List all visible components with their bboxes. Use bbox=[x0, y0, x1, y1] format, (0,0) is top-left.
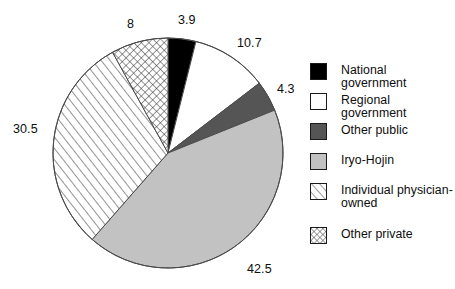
slice-value-label-other-private: 8 bbox=[127, 17, 134, 31]
legend-swatch-solid-dark-gray bbox=[310, 123, 327, 140]
pie-chart-figure: 3.9 10.7 4.3 42.5 30.5 8 National govern… bbox=[0, 0, 455, 289]
legend-label: Regional government bbox=[341, 92, 455, 119]
diagonal-hatch-icon bbox=[311, 184, 326, 199]
chart-legend: National government Regional government … bbox=[310, 62, 455, 256]
slice-value-label-national-government: 3.9 bbox=[178, 13, 196, 27]
legend-item-regional-government: Regional government bbox=[310, 92, 455, 122]
legend-item-other-public: Other public bbox=[310, 122, 455, 152]
legend-swatch-solid-black bbox=[310, 63, 327, 80]
legend-swatch-solid-light-gray bbox=[310, 153, 327, 170]
legend-label: Individual physician-owned bbox=[341, 182, 453, 209]
legend-item-national-government: National government bbox=[310, 62, 455, 92]
legend-swatch-cross-hatch bbox=[310, 227, 327, 244]
legend-item-other-private: Other private bbox=[310, 226, 455, 256]
legend-label: Other public bbox=[341, 122, 408, 137]
chart-plot-area: 3.9 10.7 4.3 42.5 30.5 8 bbox=[0, 0, 310, 289]
pie-svg bbox=[0, 0, 310, 289]
slice-value-label-individual-physician-owned: 30.5 bbox=[13, 122, 38, 136]
legend-label: Iryo-Hojin bbox=[341, 152, 394, 167]
legend-item-iryo-hojin: Iryo-Hojin bbox=[310, 152, 455, 182]
pie-slices-group bbox=[53, 38, 283, 268]
slice-value-label-iryo-hojin: 42.5 bbox=[247, 262, 272, 276]
legend-swatch-solid-white bbox=[310, 93, 327, 110]
legend-label: Other private bbox=[341, 226, 413, 241]
slice-value-label-other-public: 4.3 bbox=[277, 82, 295, 96]
slice-value-label-regional-government: 10.7 bbox=[237, 36, 262, 50]
legend-item-individual-physician-owned: Individual physician-owned bbox=[310, 182, 455, 226]
legend-swatch-diagonal-hatch bbox=[310, 183, 327, 200]
legend-label: National government bbox=[341, 62, 455, 89]
cross-hatch-icon bbox=[311, 228, 326, 243]
